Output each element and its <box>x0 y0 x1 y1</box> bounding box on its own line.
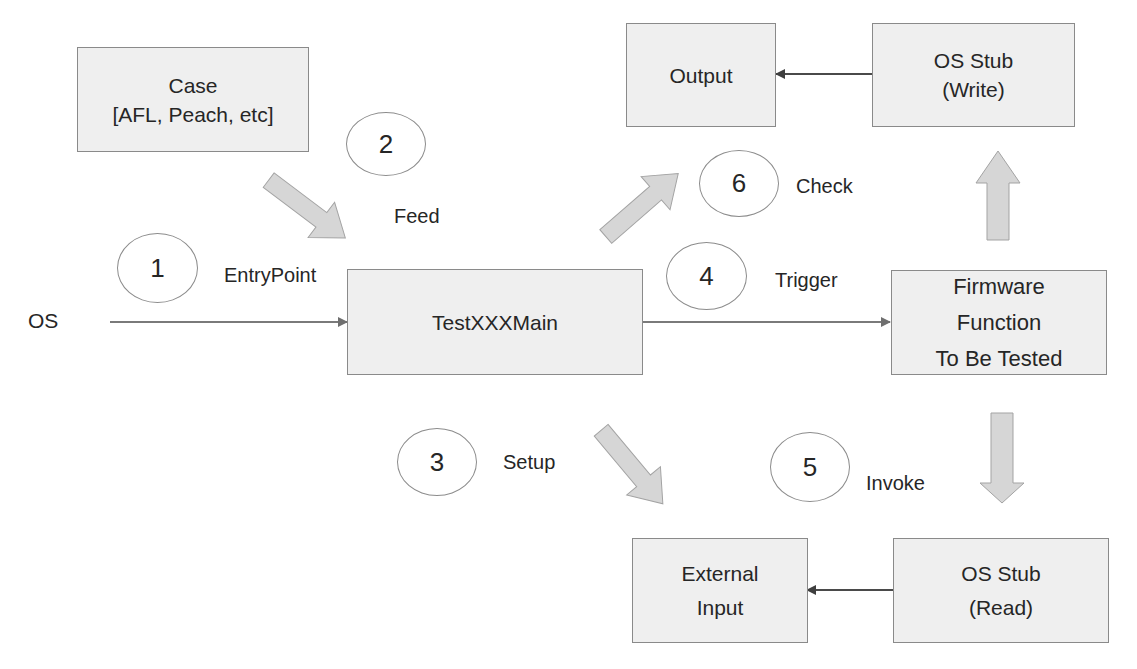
feed-block-arrow <box>255 163 358 256</box>
firmware-line-3: To Be Tested <box>936 341 1063 377</box>
os-label: OS <box>28 309 58 333</box>
firmware-function-box: Firmware Function To Be Tested <box>891 270 1107 375</box>
step-3-circle: 3 <box>397 428 477 496</box>
step-3-number: 3 <box>430 447 444 478</box>
write-up-block-arrow <box>976 151 1020 240</box>
step-2-circle: 2 <box>346 112 426 176</box>
step-5-circle: 5 <box>770 432 850 502</box>
step-1-number: 1 <box>150 253 164 284</box>
step-5-number: 5 <box>803 452 817 483</box>
external-input-line-1: External <box>681 557 758 591</box>
case-title: Case <box>168 71 217 100</box>
step-4-number: 4 <box>699 261 713 292</box>
case-box: Case [AFL, Peach, etc] <box>77 47 309 152</box>
os-stub-read-title: OS Stub <box>961 557 1040 591</box>
os-stub-write-subtitle: (Write) <box>942 75 1005 104</box>
check-block-arrow <box>591 157 692 253</box>
os-stub-read-subtitle: (Read) <box>969 591 1033 625</box>
step-6-label: Check <box>796 175 853 198</box>
setup-block-arrow <box>584 416 679 518</box>
step-5-label: Invoke <box>866 472 925 495</box>
external-input-line-2: Input <box>697 591 744 625</box>
step-4-label: Trigger <box>775 269 838 292</box>
invoke-down-block-arrow <box>980 413 1024 503</box>
firmware-line-1: Firmware <box>953 269 1045 305</box>
step-1-label: EntryPoint <box>224 264 316 287</box>
case-subtitle: [AFL, Peach, etc] <box>112 100 273 129</box>
test-main-label: TestXXXMain <box>432 308 558 337</box>
output-label: Output <box>669 61 732 90</box>
step-4-circle: 4 <box>666 242 747 310</box>
step-6-number: 6 <box>732 168 746 199</box>
step-1-circle: 1 <box>117 233 198 303</box>
diagram-canvas: Case [AFL, Peach, etc] TestXXXMain Outpu… <box>0 0 1137 669</box>
os-stub-read-box: OS Stub (Read) <box>893 538 1109 643</box>
step-3-label: Setup <box>503 451 555 474</box>
step-6-circle: 6 <box>699 150 779 217</box>
external-input-box: External Input <box>632 538 808 643</box>
firmware-line-2: Function <box>957 305 1041 341</box>
step-2-number: 2 <box>379 129 393 160</box>
test-main-box: TestXXXMain <box>347 269 643 375</box>
step-2-label: Feed <box>394 205 440 228</box>
os-stub-write-title: OS Stub <box>934 46 1013 75</box>
os-stub-write-box: OS Stub (Write) <box>872 23 1075 127</box>
output-box: Output <box>626 23 776 127</box>
